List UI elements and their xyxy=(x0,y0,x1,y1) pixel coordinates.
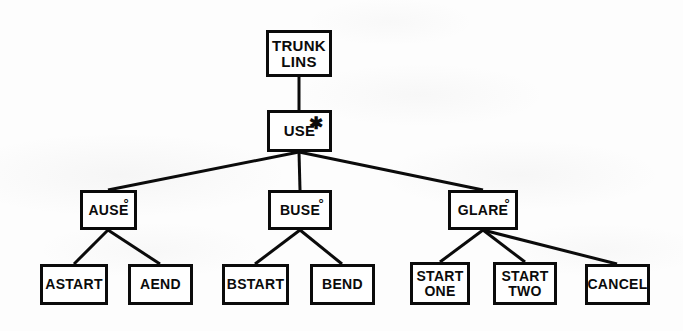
asterisk-mark-icon: ✱ xyxy=(309,115,323,132)
node-bend[interactable]: BEND xyxy=(310,264,375,305)
node-label-bend: BEND xyxy=(322,277,363,292)
edge-ause-to-aend xyxy=(108,230,160,264)
node-label-trunk-lins: TRUNK LINS xyxy=(272,38,326,70)
node-label-start-two: START TWO xyxy=(501,269,548,298)
node-glare[interactable]: GLARE° xyxy=(448,190,518,230)
edge-use-to-buse xyxy=(299,152,300,190)
circle-mark-icon: ° xyxy=(505,197,511,210)
node-cancel[interactable]: CANCEL xyxy=(585,264,650,305)
node-start-two[interactable]: START TWO xyxy=(493,262,557,305)
edge-glare-to-start-one xyxy=(440,230,483,262)
node-ause[interactable]: AUSE° xyxy=(80,190,137,230)
node-label-bstart: BSTART xyxy=(227,277,285,292)
node-trunk-lins[interactable]: TRUNK LINS xyxy=(266,30,332,77)
node-label-start-one: START ONE xyxy=(416,269,463,298)
node-start-one[interactable]: START ONE xyxy=(410,262,470,305)
node-label-glare: GLARE xyxy=(458,203,509,218)
circle-mark-icon: ° xyxy=(124,197,130,210)
node-label-buse: BUSE xyxy=(280,203,320,218)
edge-use-to-ause xyxy=(108,152,299,190)
node-aend[interactable]: AEND xyxy=(128,264,193,305)
edge-use-to-glare xyxy=(299,152,483,190)
node-label-aend: AEND xyxy=(140,277,181,292)
node-buse[interactable]: BUSE° xyxy=(268,190,332,230)
edge-buse-to-bstart xyxy=(255,230,300,264)
node-use[interactable]: USE✱ xyxy=(267,110,332,152)
circle-mark-icon: ° xyxy=(319,197,325,210)
node-bstart[interactable]: BSTART xyxy=(222,264,289,305)
node-label-astart: ASTART xyxy=(45,277,103,292)
edge-ause-to-astart xyxy=(74,230,108,264)
edge-buse-to-bend xyxy=(300,230,342,264)
node-label-cancel: CANCEL xyxy=(587,277,647,292)
diagram-canvas: TRUNK LINSUSE✱AUSE°BUSE°GLARE°ASTARTAEND… xyxy=(0,0,683,331)
node-astart[interactable]: ASTART xyxy=(40,264,108,305)
